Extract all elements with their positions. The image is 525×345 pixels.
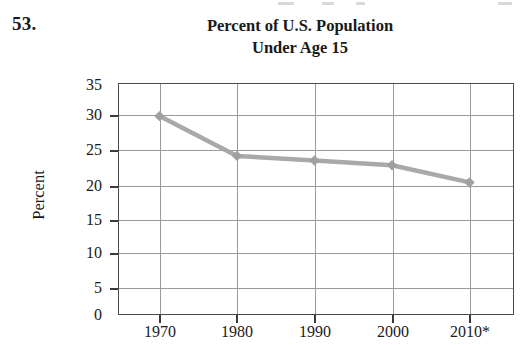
data-point-1990: [309, 155, 319, 165]
data-point-2000: [387, 160, 397, 170]
data-point-2010: [464, 177, 474, 187]
line-chart: Percent 0 5 10 15 20 25 30 35 1970 1980 …: [0, 0, 525, 345]
data-series-line: [0, 0, 525, 345]
